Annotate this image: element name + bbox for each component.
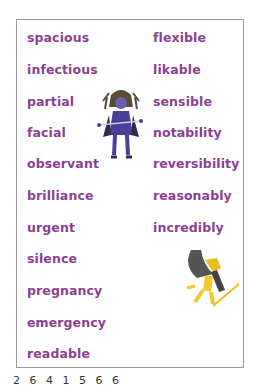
witch-character-illustration: [97, 85, 145, 165]
word-left: facial: [27, 126, 66, 140]
word-right: likable: [153, 63, 201, 77]
word-left: silence: [27, 252, 77, 266]
word-list-box: spacious infectious partial facial obser…: [16, 19, 244, 368]
word-left: readable: [27, 347, 90, 361]
word-left: infectious: [27, 63, 98, 77]
word-left: urgent: [27, 221, 75, 235]
word-left: partial: [27, 95, 74, 109]
word-right: reasonably: [153, 189, 232, 203]
page-footer-text: 2 6 4 1 5 6 6: [13, 374, 122, 387]
word-left: emergency: [27, 316, 106, 330]
word-right: flexible: [153, 31, 206, 45]
word-right: notability: [153, 126, 222, 140]
word-left: spacious: [27, 31, 89, 45]
running-character-illustration: [183, 246, 241, 312]
word-left: brilliance: [27, 189, 93, 203]
word-right: incredibly: [153, 221, 224, 235]
word-left: pregnancy: [27, 284, 102, 298]
word-right: sensible: [153, 95, 212, 109]
word-left: observant: [27, 157, 99, 171]
word-right: reversibility: [153, 157, 239, 171]
